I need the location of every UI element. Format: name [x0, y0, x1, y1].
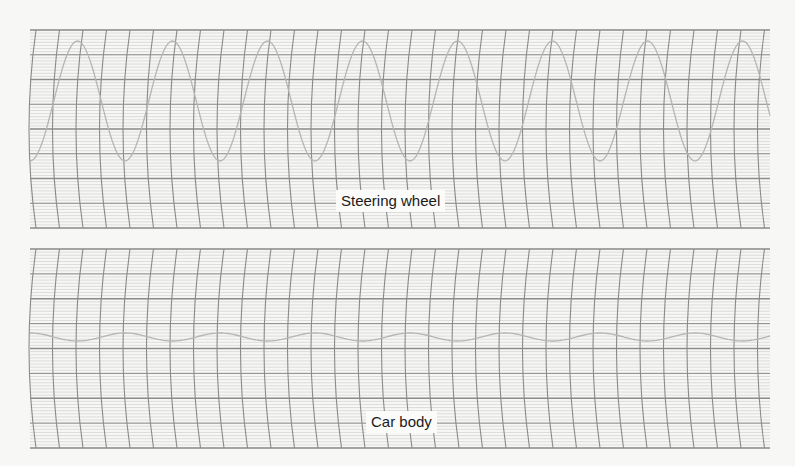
- strip-chart-figure: [0, 0, 795, 466]
- car-body-label: Car body: [366, 411, 437, 433]
- waveform-trace: [30, 333, 770, 341]
- steering-wheel-label: Steering wheel: [336, 190, 445, 212]
